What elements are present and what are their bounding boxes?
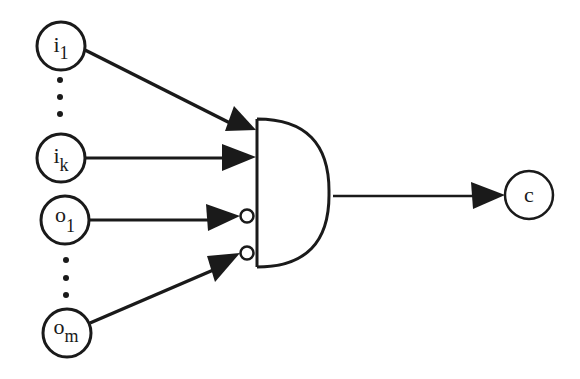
node-o1: o1 <box>41 196 89 244</box>
arrowhead-icon <box>206 204 240 231</box>
arrowhead-icon <box>222 144 256 171</box>
ellipsis-inputs-o <box>63 257 69 298</box>
edge-ik-to-gate <box>86 144 256 171</box>
node-om-base: o <box>53 314 64 339</box>
arrowhead-icon <box>471 182 505 209</box>
edge-om-to-gate <box>90 247 254 324</box>
inversion-bubble <box>241 247 254 260</box>
node-ik-sub: k <box>60 155 69 175</box>
node-i1: i1 <box>37 22 85 70</box>
arrowhead-icon <box>207 253 240 282</box>
node-o1-sub: 1 <box>66 216 75 236</box>
arrowhead-icon <box>225 106 256 131</box>
node-om: om <box>43 309 91 357</box>
node-ik: ik <box>37 134 85 182</box>
edge-gate-to-c <box>333 182 505 209</box>
and-gate <box>257 119 329 267</box>
logic-diagram: i1 ik o1 om c <box>0 0 580 379</box>
inversion-bubble <box>241 210 254 223</box>
edge-o1-to-gate <box>90 204 254 231</box>
node-c: c <box>505 171 553 219</box>
node-c-label: c <box>524 182 534 207</box>
node-om-sub: m <box>64 326 78 346</box>
edge-i1-to-gate <box>85 50 256 131</box>
node-o1-base: o <box>55 202 66 227</box>
ellipsis-inputs-i <box>57 77 63 117</box>
node-i1-sub: 1 <box>60 43 69 63</box>
